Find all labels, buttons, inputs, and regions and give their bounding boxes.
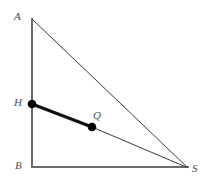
point-H-marker [28, 100, 37, 109]
vertex-label-B: B [15, 160, 22, 171]
segment-AS [32, 19, 187, 167]
point-label-H: H [14, 97, 22, 108]
segment-QS [92, 127, 186, 167]
geometry-canvas [0, 0, 210, 186]
geometry-figure: A B S H Q [0, 0, 210, 186]
vertex-label-A: A [14, 11, 21, 22]
segment-HQ [32, 104, 92, 127]
point-Q-marker [88, 123, 97, 132]
point-label-Q: Q [93, 110, 101, 121]
vertex-label-S: S [192, 163, 198, 174]
